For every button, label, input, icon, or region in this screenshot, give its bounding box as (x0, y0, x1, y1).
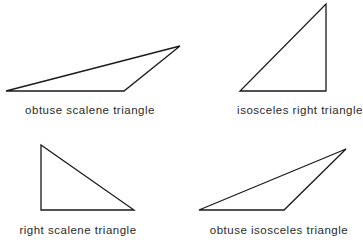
right-scalene-triangle (41, 145, 134, 210)
isosceles-right-triangle (240, 4, 326, 91)
obtuse-isosceles-label: obtuse isosceles triangle (210, 224, 348, 236)
isosceles-right-label: isosceles right triangle (237, 104, 363, 116)
obtuse-scalene-triangle (6, 46, 180, 91)
right-scalene-label: right scalene triangle (19, 224, 136, 236)
obtuse-isosceles-triangle (199, 149, 346, 210)
obtuse-scalene-label: obtuse scalene triangle (25, 104, 155, 116)
